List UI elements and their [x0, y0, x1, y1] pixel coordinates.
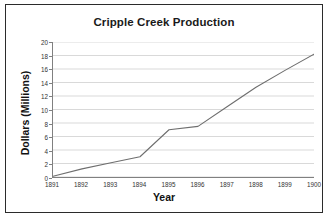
y-tick-mark — [49, 137, 52, 138]
x-tick-label: 1900 — [307, 181, 321, 188]
plot-wrapper: 02468101214161820 1891189218931894189518… — [52, 42, 314, 178]
x-tick-label: 1891 — [45, 181, 59, 188]
y-tick-mark — [49, 164, 52, 165]
y-tick-label: 14 — [41, 79, 48, 86]
y-tick-label: 16 — [41, 66, 48, 73]
y-tick-mark — [49, 151, 52, 152]
y-tick-label: 8 — [44, 120, 48, 127]
y-axis-label: Dollars (Millions) — [19, 53, 31, 173]
y-tick-label: 2 — [44, 161, 48, 168]
x-tick-label: 1895 — [161, 181, 175, 188]
chart-canvas: Cripple Creek Production Dollars (Millio… — [6, 5, 322, 212]
x-axis-label: Year — [6, 191, 322, 203]
y-tick-mark — [49, 83, 52, 84]
x-tick-label: 1898 — [249, 181, 263, 188]
y-tick-mark — [49, 124, 52, 125]
y-tick-label: 12 — [41, 93, 48, 100]
y-tick-label: 18 — [41, 52, 48, 59]
y-tick-label: 20 — [41, 39, 48, 46]
x-tick-label: 1892 — [74, 181, 88, 188]
y-tick-mark — [49, 56, 52, 57]
plot-area — [52, 42, 314, 178]
x-tick-label: 1897 — [220, 181, 234, 188]
gridlines — [53, 42, 314, 177]
y-tick-label: 10 — [41, 107, 48, 114]
y-tick-mark — [49, 110, 52, 111]
x-tick-label: 1899 — [278, 181, 292, 188]
y-tick-label: 4 — [44, 147, 48, 154]
y-tick-mark — [49, 42, 52, 43]
chart-title: Cripple Creek Production — [6, 16, 322, 28]
y-tick-label: 6 — [44, 134, 48, 141]
y-tick-mark — [49, 178, 52, 179]
chart-figure: Cripple Creek Production Dollars (Millio… — [5, 4, 323, 213]
x-tick-label: 1893 — [103, 181, 117, 188]
x-tick-label: 1894 — [132, 181, 146, 188]
line-chart-svg — [53, 42, 314, 177]
x-tick-label: 1896 — [191, 181, 205, 188]
y-tick-mark — [49, 96, 52, 97]
data-series-line — [53, 54, 314, 176]
y-tick-mark — [49, 69, 52, 70]
